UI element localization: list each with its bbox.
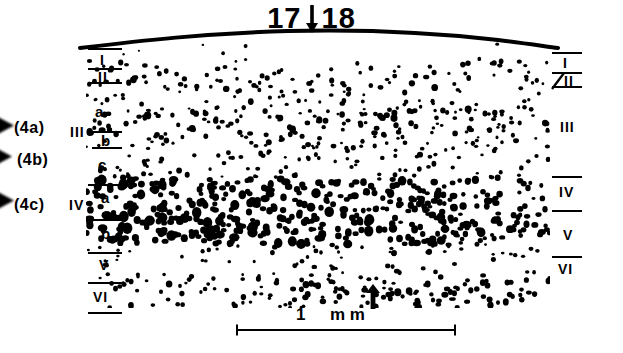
layer-label-right-I: I — [563, 56, 568, 70]
layer-rule-right-4 — [552, 176, 582, 178]
callout-label-4b: (4b) — [17, 151, 48, 169]
arrowhead-icon-4a — [0, 117, 14, 134]
layer-rule-left-8 — [88, 252, 122, 254]
layer-rule-left-1 — [88, 48, 122, 50]
scale-bar — [232, 322, 460, 338]
layer-label-right-IV: IV — [559, 185, 574, 199]
layer-label-right-II: II — [564, 74, 574, 88]
layer-rule-left-6 — [88, 184, 122, 186]
callout-label-4c: (4c) — [14, 196, 44, 214]
sublayer-label-left-IVb: b — [101, 226, 110, 241]
sublayer-label-left-IIIb: b — [101, 133, 110, 148]
up-arrow-icon — [365, 284, 381, 310]
layer-rule-right-1 — [552, 52, 582, 54]
figure-panel: 1718 (4a) (4b) (4c) I II a III b c IV a … — [0, 0, 623, 353]
layer-rule-left-10 — [88, 312, 122, 314]
layer-label-right-III: III — [560, 120, 575, 134]
layer-label-right-VI: VI — [558, 262, 573, 276]
callout-label-4a: (4a) — [14, 119, 44, 137]
arrowhead-icon-4b — [0, 148, 12, 165]
dot-density-plot — [86, 36, 550, 308]
layer-label-right-V: V — [563, 228, 573, 242]
layer-rule-right-6 — [552, 256, 582, 258]
label-dots — [86, 36, 550, 308]
layer-label-left-VI: VI — [93, 290, 108, 304]
layer-rule-left-9 — [88, 282, 122, 284]
arrowhead-icon-4c — [0, 192, 14, 209]
layer-rule-right-5 — [552, 210, 582, 212]
sublayer-label-left-IIIc: c — [98, 157, 106, 172]
sublayer-label-left-IVa: a — [101, 190, 109, 205]
layer-label-left-III: III — [70, 125, 85, 139]
sublayer-label-left-IIIa: a — [95, 104, 103, 119]
layer-label-left-V: V — [99, 258, 109, 272]
layer-label-left-IV: IV — [69, 198, 84, 212]
layer-rule-left-7 — [92, 219, 122, 221]
layer-label-left-II: II — [98, 70, 108, 84]
layer-label-left-I: I — [100, 53, 105, 67]
